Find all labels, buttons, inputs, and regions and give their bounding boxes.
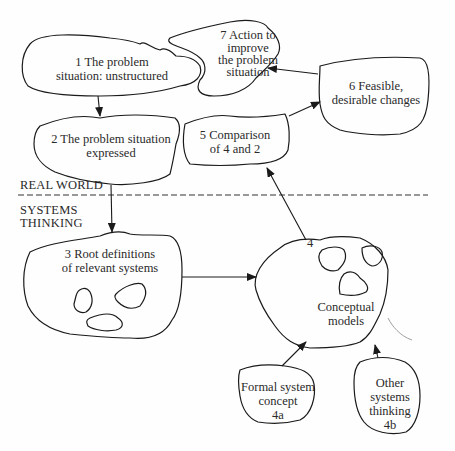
label-line: desirable changes xyxy=(326,93,426,107)
label-line: 7 Action to xyxy=(212,28,284,42)
label-line: models xyxy=(306,314,386,328)
edge-2-to-3 xyxy=(111,185,112,232)
label-line: Other xyxy=(360,376,420,390)
label-line: thinking xyxy=(360,404,420,418)
label-line: systems xyxy=(360,390,420,404)
label-line: 5 Comparison xyxy=(195,128,275,142)
node-1-label: 1 The problem situation: unstructured xyxy=(52,55,172,83)
edge-1-to-2 xyxy=(98,96,100,116)
node-5-label: 5 Comparison of 4 and 2 xyxy=(195,128,275,156)
node-4a-label: Formal system concept 4a xyxy=(240,380,316,422)
label-line: situation: unstructured xyxy=(52,69,172,83)
node-4-shape xyxy=(255,237,388,348)
node-3-label: 3 Root definitions of relevant systems xyxy=(50,247,170,275)
edge-4-to-5 xyxy=(267,168,306,240)
label-line: Formal system xyxy=(240,380,316,394)
soft-systems-diagram: REAL WORLD SYSTEMS THINKING 1 The proble… xyxy=(0,0,455,451)
label-line: 1 The problem xyxy=(52,55,172,69)
label-line: of relevant systems xyxy=(50,261,170,275)
zone-label-line: THINKING xyxy=(20,217,83,230)
label-line: 4a xyxy=(240,408,316,422)
edge-4b-to-4 xyxy=(375,345,378,358)
node-4-number: 4 xyxy=(304,236,316,250)
zone-label-systems-thinking: SYSTEMS THINKING xyxy=(20,204,83,230)
node-4b-label: Other systems thinking 4b xyxy=(360,376,420,432)
edge-5-to-6 xyxy=(289,102,320,116)
node-7-label: 7 Action to improve the problem situatio… xyxy=(212,28,284,78)
label-line: expressed xyxy=(46,146,176,160)
zone-label-real-world: REAL WORLD xyxy=(20,179,103,192)
label-line: situation xyxy=(212,66,284,78)
label-line: of 4 and 2 xyxy=(195,142,275,156)
label-line: 3 Root definitions xyxy=(50,247,170,261)
node-6-label: 6 Feasible, desirable changes xyxy=(326,79,426,107)
edge-4a-to-4 xyxy=(282,342,306,366)
label-line: concept xyxy=(240,394,316,408)
label-line: Conceptual xyxy=(306,300,386,314)
node-4-label: Conceptual models xyxy=(306,300,386,328)
label-line: 4b xyxy=(360,418,420,432)
node-2-label: 2 The problem situation expressed xyxy=(46,132,176,160)
label-line: 6 Feasible, xyxy=(326,79,426,93)
label-line: 2 The problem situation xyxy=(46,132,176,146)
